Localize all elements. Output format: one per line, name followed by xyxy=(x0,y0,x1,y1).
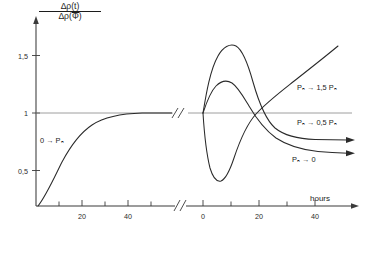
curve-label-power-down-half: Pₙ → 0,5 Pₙ xyxy=(297,118,337,127)
x-tick-label-right-0: 0 xyxy=(201,212,205,221)
x-break-slash-2 xyxy=(180,200,186,211)
curve-shutdown xyxy=(203,46,338,181)
curve-power-down-half-arrow xyxy=(346,150,355,156)
y-tick-label-1: 1 xyxy=(24,109,28,118)
unity-break-slash-1 xyxy=(172,108,178,118)
y-tick-label-0-5: 0,5 xyxy=(18,167,28,176)
chart-container: Δρ(t) Δρ(Φ) xyxy=(0,0,375,253)
x-axis-right xyxy=(186,200,359,209)
x-axis-left xyxy=(36,200,175,206)
y-axis-arrow xyxy=(33,16,39,24)
curve-label-power-up: Pₙ → 1,5 Pₙ xyxy=(297,83,337,92)
x-tick-label-right-40: 40 xyxy=(311,212,319,221)
reference-line-unity xyxy=(36,108,352,118)
unity-break-slash-2 xyxy=(178,108,184,118)
y-axis xyxy=(32,16,40,206)
x-axis-unit-label: hours xyxy=(310,194,330,203)
x-tick-label-left-40: 40 xyxy=(124,212,132,221)
x-tick-label-right-20: 20 xyxy=(255,212,263,221)
curve-startup xyxy=(38,113,172,206)
curve-power-up-arrow xyxy=(346,137,355,143)
curve-label-startup: 0 → Pₙ xyxy=(40,136,64,145)
x-axis-arrow xyxy=(351,203,359,209)
x-axis-break xyxy=(174,200,186,211)
y-tick-label-1-5: 1,5 xyxy=(18,52,28,61)
curve-label-shutdown: Pₙ → 0 xyxy=(292,155,316,164)
x-tick-label-left-20: 20 xyxy=(78,212,86,221)
plot-area: 1,5 1 0,5 20 40 0 20 40 hours 0 → Pₙ Pₙ … xyxy=(0,0,375,253)
